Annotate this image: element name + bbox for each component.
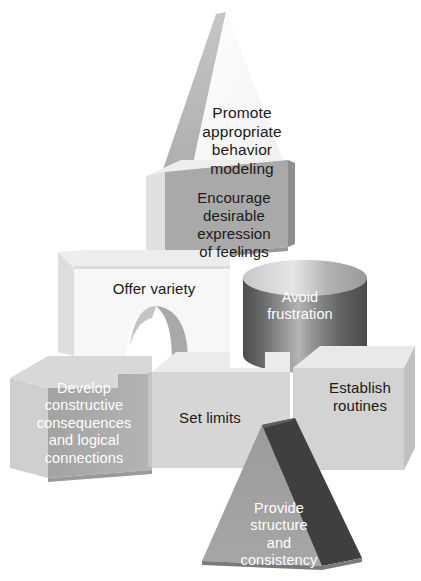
develop-left-face — [10, 378, 48, 478]
offer-top-edge — [74, 266, 230, 269]
cylinder-top-face — [243, 260, 367, 296]
encourage-front-face — [165, 160, 288, 257]
block-develop — [10, 356, 152, 482]
block-establish — [293, 346, 415, 470]
block-offer-variety — [58, 250, 230, 360]
encourage-right-face — [288, 160, 295, 247]
offer-left-face — [58, 252, 74, 356]
encourage-left-face — [146, 172, 165, 258]
block-promote — [160, 12, 290, 182]
setlimits-top-face — [152, 352, 290, 372]
offer-top-face — [58, 250, 230, 268]
develop-front-face — [48, 374, 152, 478]
blocks-illustration: Promote appropriate behavior modeling En… — [0, 0, 421, 581]
block-encourage — [146, 160, 295, 261]
blocks-canvas — [0, 0, 421, 581]
setlimits-left-edge — [148, 372, 152, 468]
